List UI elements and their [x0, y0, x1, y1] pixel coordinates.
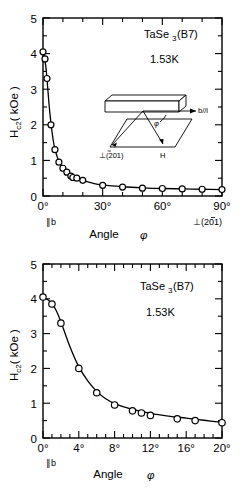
x-tick-labels-expanded: 0°4°8°12°16°20° [38, 442, 231, 454]
data-point [40, 294, 46, 300]
y-axis-title-full-range: Hc2( kOe ) [8, 86, 23, 138]
y-tick-label: 1 [31, 155, 37, 167]
inset-label-H: H [160, 151, 165, 160]
sample-suffix: (B7) [177, 28, 198, 40]
data-point [129, 408, 135, 414]
data-point [48, 122, 54, 128]
y-tick-label: 0 [31, 433, 37, 445]
y-axis-title-unit: ( kOe ) [8, 329, 20, 364]
y-axis-title-expanded: Hc2( kOe ) [8, 329, 23, 381]
y-axis-title-text: Hc2( kOe ) [8, 86, 23, 138]
fit-curve-full-range [43, 52, 222, 190]
data-point [44, 76, 50, 82]
y-axis-title-main: H [8, 373, 20, 381]
sample-label: TaSe [144, 28, 169, 40]
y-tick-label: 1 [31, 398, 37, 410]
data-point [139, 185, 145, 191]
data-point [94, 390, 100, 396]
x-tick-label: 20° [213, 442, 230, 454]
x-axis-title-symbol: φ [140, 229, 148, 241]
x-axis-endpoint-right-text: ⊥(201) [193, 217, 222, 227]
data-point [219, 187, 225, 193]
y-tick-label: 5 [31, 259, 37, 271]
y-tick-label: 0 [31, 191, 37, 203]
x-axis-title-main: Angle [89, 228, 118, 240]
data-point [219, 419, 225, 425]
x-tick-label: 16° [178, 442, 195, 454]
data-point [42, 56, 48, 62]
x-axis-title-main: Angle [93, 468, 122, 480]
data-point [179, 186, 185, 192]
data-point [192, 417, 198, 423]
inset-vector-perp [112, 111, 143, 145]
x-axis-endpoint-left-expanded: ∥b [46, 458, 56, 468]
y-tick-label: 3 [31, 328, 37, 340]
inset-angle-arc [160, 115, 166, 122]
chart-panel-full-range: 0°30°60°90° 012345 TaSe 3 (B7) 1.53K Hc2… [0, 0, 246, 250]
inset-phi-label: φ [154, 119, 159, 128]
inset-vector-H [143, 111, 163, 144]
data-point [199, 186, 205, 192]
data-point [80, 177, 86, 183]
y-tick-labels-full-range: 012345 [31, 13, 38, 203]
data-point [74, 175, 80, 181]
inset-label-perp: ⊥(201) [99, 151, 124, 160]
data-points-full-range [40, 49, 225, 193]
y-axis-title-main: H [8, 130, 20, 138]
inset-arrowhead-b [190, 109, 196, 114]
x-axis-title-symbol: φ [147, 469, 155, 481]
x-axis-endpoint-right-full-range: ⊥(201) [193, 217, 222, 227]
x-tick-label: 4° [73, 442, 84, 454]
x-tick-label: 0° [38, 200, 49, 212]
chart-panel-expanded: 0°4°8°12°16°20° 012345 TaSe 3 (B7) 1.53K… [0, 250, 246, 491]
data-point [147, 412, 153, 418]
chart-svg-full-range: 0°30°60°90° 012345 TaSe 3 (B7) 1.53K Hc2… [0, 0, 246, 250]
data-point [159, 186, 165, 192]
data-point [120, 184, 126, 190]
y-tick-label: 3 [31, 84, 37, 96]
x-tick-label: 12° [142, 442, 159, 454]
data-points-expanded [40, 294, 225, 426]
sample-annotation-expanded: TaSe 3 (B7) [140, 280, 194, 295]
x-tick-label: 30° [94, 200, 111, 212]
inset-arrowhead-H [159, 139, 164, 144]
chart-svg-expanded: 0°4°8°12°16°20° 012345 TaSe 3 (B7) 1.53K… [0, 250, 246, 491]
data-point [138, 410, 144, 416]
temperature-label-full-range: 1.53K [150, 53, 179, 65]
sample-label: TaSe [140, 280, 165, 292]
data-point [49, 301, 55, 307]
fit-curve-expanded [43, 297, 222, 422]
y-tick-label: 4 [31, 48, 38, 60]
y-tick-label: 2 [31, 363, 37, 375]
x-tick-label: 0° [38, 442, 49, 454]
inset-label-b: b//i [198, 106, 208, 115]
inset-crystal-orientation-diagram: φ b//i ⊥(201) H [99, 95, 208, 160]
data-point [76, 365, 82, 371]
x-tick-labels-full-range: 0°30°60°90° [38, 200, 231, 212]
x-tick-label: 8° [109, 442, 120, 454]
x-axis-title-full-range: Angle φ [89, 228, 148, 241]
data-point [111, 402, 117, 408]
x-axis-title-expanded: Angle φ [93, 468, 155, 481]
y-axis-title-text: Hc2( kOe ) [8, 329, 23, 381]
x-tick-label: 90° [213, 200, 230, 212]
data-point [100, 182, 106, 188]
data-point [58, 320, 64, 326]
sample-annotation-full-range: TaSe 3 (B7) [144, 28, 198, 43]
x-tick-label: 60° [154, 200, 171, 212]
y-tick-label: 2 [31, 119, 37, 131]
temperature-label-expanded: 1.53K [146, 306, 175, 318]
y-tick-labels-expanded: 012345 [31, 259, 38, 445]
y-tick-label: 4 [31, 293, 38, 305]
y-axis-title-unit: ( kOe ) [8, 86, 20, 121]
data-point [56, 159, 62, 165]
data-point [40, 49, 46, 55]
y-tick-label: 5 [31, 13, 37, 25]
x-axis-endpoint-left-full-range: ∥b [46, 217, 56, 227]
data-point [52, 147, 58, 153]
sample-suffix: (B7) [173, 280, 194, 292]
data-point [174, 416, 180, 422]
